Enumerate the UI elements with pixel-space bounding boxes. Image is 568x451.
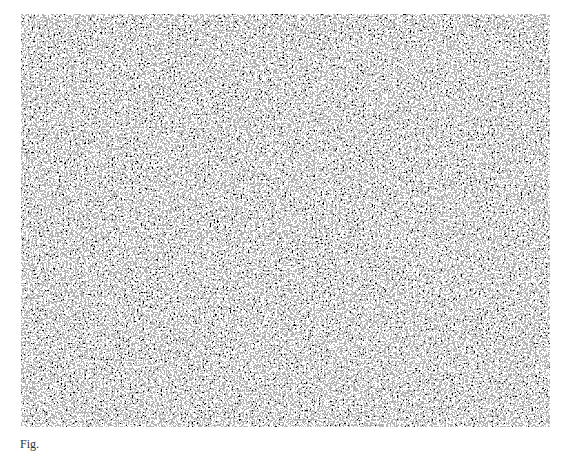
- noise-pattern: [21, 14, 550, 427]
- random-dot-stereogram-figure: [21, 14, 550, 427]
- figure-caption: Fig.: [20, 437, 550, 451]
